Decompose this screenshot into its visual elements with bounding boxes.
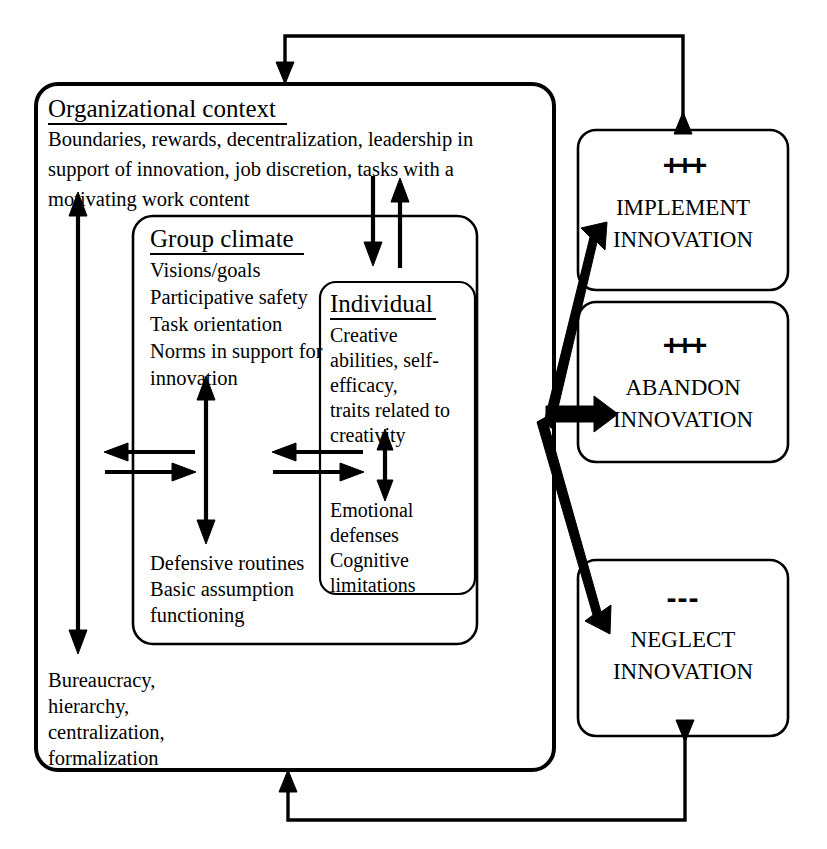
abandon-innovation-content: +++ ABANDON INNOVATION [613,328,754,432]
neglect-label-line-1: NEGLECT [631,627,736,652]
individual-heading: Individual [330,290,433,317]
innovation-model-diagram: Organizational context Boundaries, rewar… [0,0,827,849]
individual-negative-line-1: Emotional [330,499,414,521]
context-group-vertical-arrow-pair [364,176,409,268]
individual-positive-line-4: traits related to [330,399,450,421]
individual-negative-line-3: Cognitive [330,549,409,572]
organizational-context-heading: Organizational context [48,95,276,122]
group-climate-positive-line-2: Participative safety [150,286,308,309]
implement-sign: +++ [663,148,707,181]
context-internal-double-arrow [69,192,87,654]
abandon-label-line-1: ABANDON [626,375,741,400]
organizational-context-desc-line-2: support of innovation, job discretion, t… [48,158,454,181]
individual-positive-line-1: Creative [330,324,398,346]
group-climate-double-arrow [197,376,215,544]
organizational-context-desc-line-1: Boundaries, rewards, decentralization, l… [48,128,473,151]
implement-label-line-1: IMPLEMENT [616,195,750,220]
abandon-sign: +++ [663,328,707,361]
neglect-sign: --- [667,581,700,614]
implement-label-line-2: INNOVATION [613,227,754,252]
organizational-context-negative-line-2: hierarchy, [48,695,129,718]
group-climate-positive-line-5: innovation [150,367,238,389]
organizational-context-negative-line-3: centralization, [48,721,165,743]
individual-positive-line-3: efficacy, [330,374,398,397]
group-climate-negative-line-1: Defensive routines [150,552,304,574]
individual-positive-line-5: creativity [330,424,406,447]
group-individual-horizontal-arrow-pair [272,443,364,481]
context-group-horizontal-arrow-pair [104,443,196,481]
individual-negative-line-4: limitations [330,574,416,596]
individual-negative-line-2: defenses [330,524,399,546]
neglect-innovation-content: --- NEGLECT INNOVATION [613,581,754,684]
organizational-context-desc-line-3: motivating work content [48,188,250,211]
group-climate-positive-line-1: Visions/goals [150,259,260,282]
group-climate-negative-line-3: functioning [150,604,245,627]
group-climate-positive-line-3: Task orientation [150,313,282,335]
abandon-label-line-2: INNOVATION [613,407,754,432]
group-climate-heading: Group climate [150,225,294,252]
individual-positive-line-2: abilities, self- [330,349,439,371]
implement-innovation-content: +++ IMPLEMENT INNOVATION [613,148,754,252]
diagram-root: Organizational context Boundaries, rewar… [0,0,827,849]
group-climate-positive-line-4: Norms in support for [150,340,323,363]
organizational-context-negative-line-1: Bureaucracy, [48,669,155,692]
neglect-label-line-2: INNOVATION [613,659,754,684]
group-climate-negative-line-2: Basic assumption [150,578,294,601]
organizational-context-negative-line-4: formalization [48,747,158,769]
